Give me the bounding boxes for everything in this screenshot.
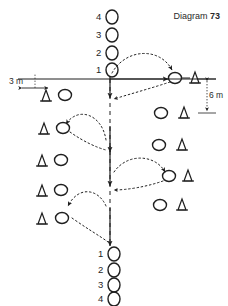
ball-icon xyxy=(59,90,72,101)
cone-icon xyxy=(176,139,188,150)
pass-return-2 xyxy=(70,126,110,152)
pass-arc-1 xyxy=(112,53,172,73)
pass-arc-4 xyxy=(68,192,106,206)
pass-return-3 xyxy=(114,181,163,190)
ball-icon xyxy=(154,200,167,211)
cone-icon xyxy=(36,213,48,224)
diagram-title: Diagram 73 xyxy=(173,12,220,21)
pass-arc-2 xyxy=(66,114,106,140)
top-sequence-label-3: 3 xyxy=(96,30,101,39)
bottom-sequence-label-3: 3 xyxy=(98,280,103,289)
cone-icon xyxy=(40,90,52,101)
top-sequence-balls xyxy=(106,10,118,77)
bottom-sequence-label-4: 4 xyxy=(98,294,103,303)
distance-label-6m: 6 m xyxy=(209,91,223,100)
ball-icon xyxy=(55,155,68,166)
right-column-markers xyxy=(153,72,202,211)
ball-icon xyxy=(56,213,69,224)
cone-icon xyxy=(38,123,50,134)
diagram-title-prefix: Diagram xyxy=(173,11,207,21)
ball-icon xyxy=(153,140,166,151)
pass-return-4 xyxy=(72,218,108,242)
cone-icon xyxy=(36,155,48,166)
left-column-markers xyxy=(36,90,72,225)
top-sequence-label-4: 4 xyxy=(96,12,101,21)
diagram-title-number: 73 xyxy=(210,11,220,21)
diagram-canvas: Diagram 73 4 3 2 1 1 2 3 4 3 m 6 m xyxy=(0,0,228,306)
cone-icon xyxy=(189,72,201,83)
diagram-graphics xyxy=(0,0,228,306)
bottom-sequence-label-2: 2 xyxy=(98,265,103,274)
cone-icon xyxy=(178,107,190,118)
bottom-sequence-balls xyxy=(108,247,120,306)
pass-return-1 xyxy=(114,82,170,99)
measure-3m xyxy=(22,74,48,88)
bottom-sequence-label-1: 1 xyxy=(98,249,103,258)
cone-icon xyxy=(36,185,48,196)
top-sequence-label-1: 1 xyxy=(96,65,101,74)
ball-icon xyxy=(55,185,68,196)
ball-icon xyxy=(57,123,70,134)
pass-arc-3 xyxy=(114,158,165,172)
cone-icon xyxy=(176,199,188,210)
ball-icon xyxy=(169,73,182,84)
ball-icon xyxy=(163,171,176,182)
distance-label-3m: 3 m xyxy=(9,77,23,86)
ball-icon xyxy=(155,108,168,119)
top-sequence-label-2: 2 xyxy=(96,48,101,57)
cone-icon xyxy=(182,170,194,181)
